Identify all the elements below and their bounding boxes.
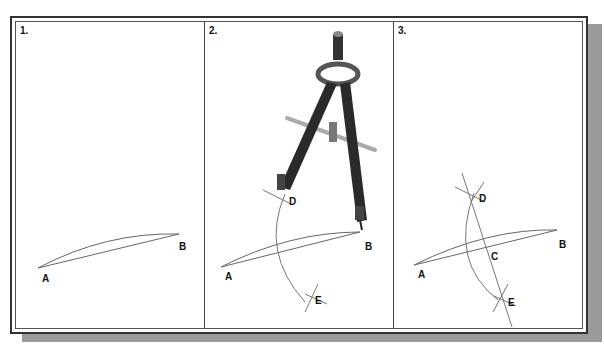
point-b-label: B — [365, 241, 372, 252]
point-b-label: B — [179, 241, 186, 252]
bisected-arc-drawing: A B C D E — [394, 22, 584, 330]
point-b-label: B — [559, 239, 566, 250]
point-a-label: A — [42, 273, 49, 284]
panel-step-2: 2. A B D E — [205, 22, 394, 328]
point-d-label: D — [289, 196, 296, 207]
chord-ab — [414, 230, 557, 265]
point-e-label: E — [315, 295, 322, 306]
figure-frame: 1. A B 2. A B D E — [10, 16, 588, 334]
compass-arc-drawing: A B D E — [205, 22, 395, 330]
compass-arc — [276, 194, 305, 302]
chord-ab — [38, 234, 179, 268]
point-a-label: A — [225, 271, 232, 282]
arc-ab-drawing: A B — [16, 22, 205, 330]
point-a-label: A — [418, 269, 425, 280]
compass-arc — [466, 193, 498, 300]
point-c-label: C — [491, 251, 498, 262]
point-e-label: E — [508, 297, 515, 308]
figure-inner-border: 1. A B 2. A B D E — [15, 21, 583, 329]
panel-step-1: 1. A B — [16, 22, 205, 328]
panel-step-3: 3. A B C D E — [394, 22, 582, 328]
chord-ab — [221, 232, 360, 267]
bisector-line — [462, 173, 512, 327]
point-d-label: D — [479, 193, 486, 204]
